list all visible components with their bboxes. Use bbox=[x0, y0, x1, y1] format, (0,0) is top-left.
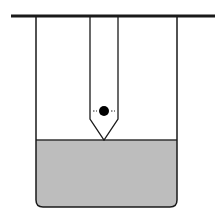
liquid-fill bbox=[36, 140, 177, 207]
tube-with-cone-tip bbox=[90, 16, 118, 140]
beaker-diagram bbox=[0, 0, 221, 217]
ball bbox=[99, 106, 109, 116]
